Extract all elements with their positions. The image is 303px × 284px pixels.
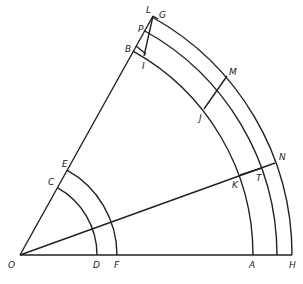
label-M: M xyxy=(229,67,237,77)
arc-AI xyxy=(133,51,253,255)
label-G: G xyxy=(159,10,166,20)
label-I: I xyxy=(142,61,145,71)
arc-DC xyxy=(57,188,97,255)
label-C: C xyxy=(48,177,55,187)
label-P: P xyxy=(138,24,144,34)
label-O: O xyxy=(8,260,15,270)
arc-HG xyxy=(152,17,292,255)
label-F: F xyxy=(114,260,120,270)
ray-ON xyxy=(20,163,275,255)
label-L: L xyxy=(146,5,151,15)
label-A: A xyxy=(248,260,255,270)
segment-IP-L xyxy=(144,16,153,56)
segment-JM xyxy=(204,76,227,109)
geometry-diagram: O D F A H C E B I P L G M J N K T xyxy=(0,0,303,284)
label-J: J xyxy=(197,113,202,123)
label-H: H xyxy=(289,260,296,270)
label-B: B xyxy=(125,44,131,54)
label-K: K xyxy=(232,180,239,190)
arc-FE xyxy=(67,170,117,255)
label-D: D xyxy=(93,260,100,270)
label-N: N xyxy=(279,152,286,162)
label-T: T xyxy=(256,173,263,183)
label-E: E xyxy=(62,159,68,169)
arc-middle xyxy=(144,31,277,256)
